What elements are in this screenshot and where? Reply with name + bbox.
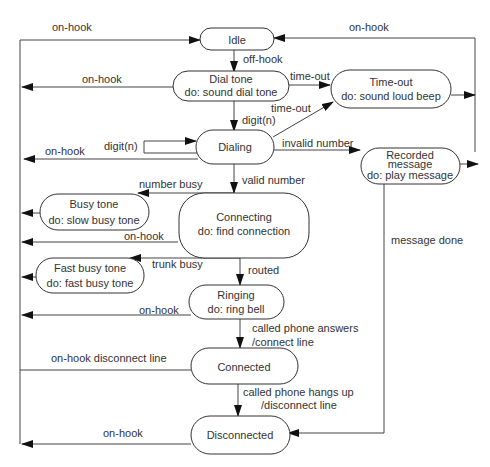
state-activity: do: find connection: [198, 225, 290, 237]
state-label: Ringing: [217, 289, 254, 301]
label-digit-first: digit(n): [242, 114, 276, 126]
label-trunk-busy: trunk busy: [152, 258, 203, 270]
label-valid-number: valid number: [242, 174, 305, 186]
state-idle: Idle: [200, 28, 274, 50]
label-onhook-ringing: on-hook: [139, 304, 179, 316]
state-label: Dial tone: [209, 73, 252, 85]
state-activity: do: play message: [367, 169, 453, 181]
state-diagram: Idle Dial tone do: sound dial tone Time-…: [0, 0, 490, 467]
label-onhook-dialtone: on-hook: [82, 73, 122, 85]
state-label: Idle: [228, 34, 246, 46]
state-activity: do: sound dial tone: [185, 86, 278, 98]
label-number-busy: number busy: [139, 178, 203, 190]
state-fast-busy-tone: Fast busy tone do: fast busy tone: [36, 258, 144, 293]
label-onhook-disconnected: on-hook: [103, 427, 143, 439]
state-activity: do: slow busy tone: [48, 214, 139, 226]
edge-dialing-self: [144, 141, 198, 153]
state-label: Dialing: [218, 141, 252, 153]
state-connecting: Connecting do: find connection: [179, 193, 309, 258]
label-timeout-dialtone: time-out: [290, 70, 330, 82]
label-onhook-disconnect-line: on-hook disconnect line: [51, 352, 167, 364]
label-onhook-idle-right: on-hook: [349, 21, 389, 33]
label-routed: routed: [248, 264, 279, 276]
state-dialing: Dialing: [196, 130, 274, 164]
label-hangs-up: called phone hangs up: [243, 386, 354, 398]
label-digit-self: digit(n): [104, 140, 138, 152]
label-called-answers: called phone answers: [252, 322, 359, 334]
label-onhook-idle-left: on-hook: [52, 21, 92, 33]
state-busy-tone: Busy tone do: slow busy tone: [40, 194, 149, 230]
label-off-hook: off-hook: [243, 53, 283, 65]
state-activity: do: fast busy tone: [47, 277, 134, 289]
label-connect-line: /connect line: [252, 336, 314, 348]
label-invalid-number: invalid number: [282, 137, 354, 149]
state-activity: do: ring bell: [208, 303, 265, 315]
state-time-out: Time-out do: sound loud beep: [331, 70, 451, 108]
state-label: Connecting: [216, 211, 272, 223]
state-label: Connected: [217, 361, 270, 373]
state-recorded-message: Recorded message do: play message: [361, 148, 460, 184]
state-label: Busy tone: [70, 198, 119, 210]
state-ringing: Ringing do: ring bell: [189, 285, 284, 319]
state-label: Disconnected: [207, 429, 274, 441]
label-timeout-dialing: time-out: [271, 102, 311, 114]
state-connected: Connected: [191, 348, 298, 384]
label-disconnect-line: /disconnect line: [261, 399, 337, 411]
label-onhook-connecting: on-hook: [124, 230, 164, 242]
state-dial-tone: Dial tone do: sound dial tone: [173, 71, 289, 101]
label-onhook-dialing: on-hook: [45, 145, 85, 157]
label-message-done: message done: [391, 234, 463, 246]
state-label: Time-out: [370, 76, 413, 88]
state-disconnected: Disconnected: [191, 416, 290, 454]
state-activity: do: sound loud beep: [341, 90, 441, 102]
state-label: Fast busy tone: [54, 262, 126, 274]
